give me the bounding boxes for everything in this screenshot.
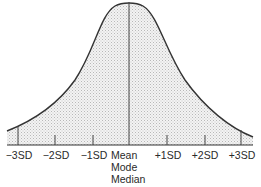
tick-label-median: Median [111, 173, 145, 185]
tick-label-minus-1sd: −1SD [81, 149, 108, 161]
tick-label-mode: Mode [111, 161, 137, 173]
shaded-area [7, 3, 253, 145]
tick-label-plus-2sd: +2SD [192, 149, 219, 161]
tick-label-plus-1sd: +1SD [155, 149, 182, 161]
tick-label-mean: Mean [111, 149, 137, 161]
tick-label-minus-2sd: −2SD [43, 149, 70, 161]
tick-label-plus-3sd: +3SD [229, 149, 256, 161]
tick-label-minus-3sd: −3SD [6, 149, 33, 161]
